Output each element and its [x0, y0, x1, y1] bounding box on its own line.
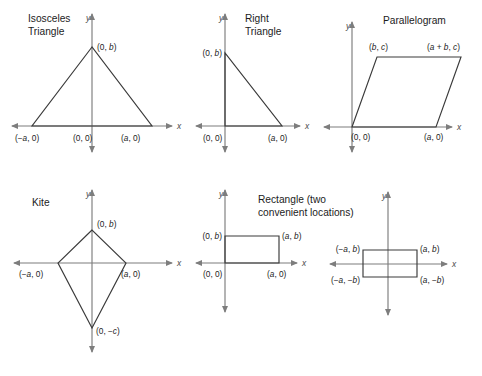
x-axis-label: x [301, 258, 307, 268]
y-axis-label: y [85, 189, 91, 199]
y-axis-label: y [218, 13, 224, 23]
panel-title-isosceles-triangle: Isosceles [28, 13, 70, 24]
shape-parallelogram [352, 57, 461, 127]
vertex-label: (a + b, c) [427, 42, 460, 52]
vertex-label: (−a, b) [336, 244, 360, 254]
panel-title-right-triangle: Triangle [245, 26, 282, 37]
x-axis-label: x [176, 258, 182, 268]
vertex-label: (0, 0) [351, 132, 371, 142]
vertex-label: (a, −b) [420, 275, 444, 285]
geometry-figure: xyIsoscelesTriangle(0, b)(−a, 0)(0, 0)(a… [0, 0, 482, 376]
vertex-label: (0, b) [97, 219, 117, 229]
panel-right-triangle: xyRightTriangle(0, b)(0, 0)(a, 0) [196, 13, 310, 152]
vertex-label: (a, 0) [121, 133, 141, 143]
shape-rectangle-first-quadrant [225, 236, 279, 263]
panel-title-kite: Kite [32, 197, 50, 208]
y-axis-label: y [218, 189, 224, 199]
vertex-label: (−a, −b) [331, 275, 360, 285]
vertex-label: (0, 0) [203, 133, 223, 143]
panel-title-parallelogram: Parallelogram [383, 15, 446, 26]
y-axis-label: y [345, 21, 351, 31]
vertex-label: (a, b) [282, 231, 302, 241]
panel-kite: xyKite(0, b)(−a, 0)(a, 0)(0, −c) [14, 189, 182, 352]
panel-title-rectangle-first-quadrant: convenient locations) [258, 207, 354, 218]
vertex-label: (0, −c) [96, 326, 120, 336]
shape-right-triangle [225, 53, 282, 126]
y-axis-label: y [381, 191, 387, 201]
panels-layer: xyIsoscelesTriangle(0, b)(−a, 0)(0, 0)(a… [12, 13, 462, 352]
panel-title-rectangle-first-quadrant: Rectangle (two [258, 194, 326, 205]
panel-isosceles-triangle: xyIsoscelesTriangle(0, b)(−a, 0)(0, 0)(a… [12, 13, 182, 152]
vertex-label: (0, b) [203, 48, 223, 58]
vertex-label: (b, c) [369, 42, 388, 52]
vertex-label: (−a, 0) [15, 133, 39, 143]
x-axis-label: x [456, 122, 462, 132]
vertex-label: (0, b) [97, 42, 117, 52]
vertex-label: (a, b) [420, 244, 440, 254]
vertex-label: (0, 0) [73, 133, 93, 143]
x-axis-label: x [451, 259, 457, 269]
x-axis-label: x [176, 121, 182, 131]
vertex-label: (a, 0) [121, 269, 141, 279]
x-axis-label: x [304, 121, 310, 131]
vertex-label: (−a, 0) [19, 269, 43, 279]
panel-title-right-triangle: Right [245, 13, 269, 24]
vertex-label: (a, 0) [424, 132, 444, 142]
panel-parallelogram: xyParallelogram(b, c)(a + b, c)(0, 0)(a,… [324, 15, 462, 152]
vertex-label: (a, 0) [267, 269, 287, 279]
y-axis-label: y [85, 13, 91, 23]
vertex-label: (0, b) [203, 231, 223, 241]
figure-canvas: xyIsoscelesTriangle(0, b)(−a, 0)(0, 0)(a… [0, 0, 482, 376]
vertex-label: (a, 0) [268, 133, 288, 143]
panel-title-isosceles-triangle: Triangle [28, 26, 65, 37]
vertex-label: (0, 0) [203, 269, 223, 279]
panel-rectangle-first-quadrant: xyRectangle (twoconvenient locations)(0,… [196, 189, 354, 312]
